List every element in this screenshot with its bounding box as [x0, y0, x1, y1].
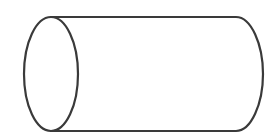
cylinder-drawing	[0, 0, 271, 140]
cylinder-diagram	[0, 0, 271, 140]
cylinder-body-outline	[51, 17, 263, 131]
cylinder-left-face	[24, 17, 78, 131]
